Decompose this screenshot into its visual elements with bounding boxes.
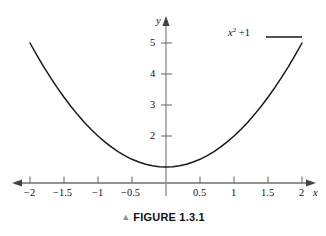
figure-caption: ▲FIGURE 1.3.1	[0, 212, 326, 223]
y-tick-label: 2	[150, 131, 155, 142]
caption-triangle-icon: ▲	[121, 212, 130, 222]
x-tick-label: −1.5	[53, 188, 72, 199]
y-tick-label: 5	[150, 38, 155, 49]
x-tick-label: −1	[92, 188, 103, 199]
x-tick-label: 1	[231, 188, 236, 199]
x-tick-label: 2	[299, 188, 304, 199]
y-tick-label: 3	[150, 100, 155, 111]
plot-canvas	[0, 0, 326, 236]
x-axis-left-arrow	[12, 179, 22, 186]
y-axis-label: y	[156, 16, 161, 27]
figure-container: −2 −1.5 −1 −0.5 0.5 1 1.5 2 5 4 3 2 y x …	[0, 0, 326, 236]
y-tick-label: 4	[150, 69, 155, 80]
x-tick-label: 1.5	[261, 188, 274, 199]
x-tick-label: −2	[24, 188, 35, 199]
x-axis-label: x	[313, 188, 318, 199]
y-axis-top-arrow	[162, 16, 169, 26]
x-axis-right-arrow	[306, 179, 316, 186]
x-tick-label: 0.5	[193, 188, 206, 199]
caption-text: FIGURE 1.3.1	[133, 211, 204, 223]
legend-entry: x2 +1	[228, 28, 250, 39]
legend-rest: +1	[236, 27, 250, 38]
x-tick-label: −0.5	[121, 188, 140, 199]
